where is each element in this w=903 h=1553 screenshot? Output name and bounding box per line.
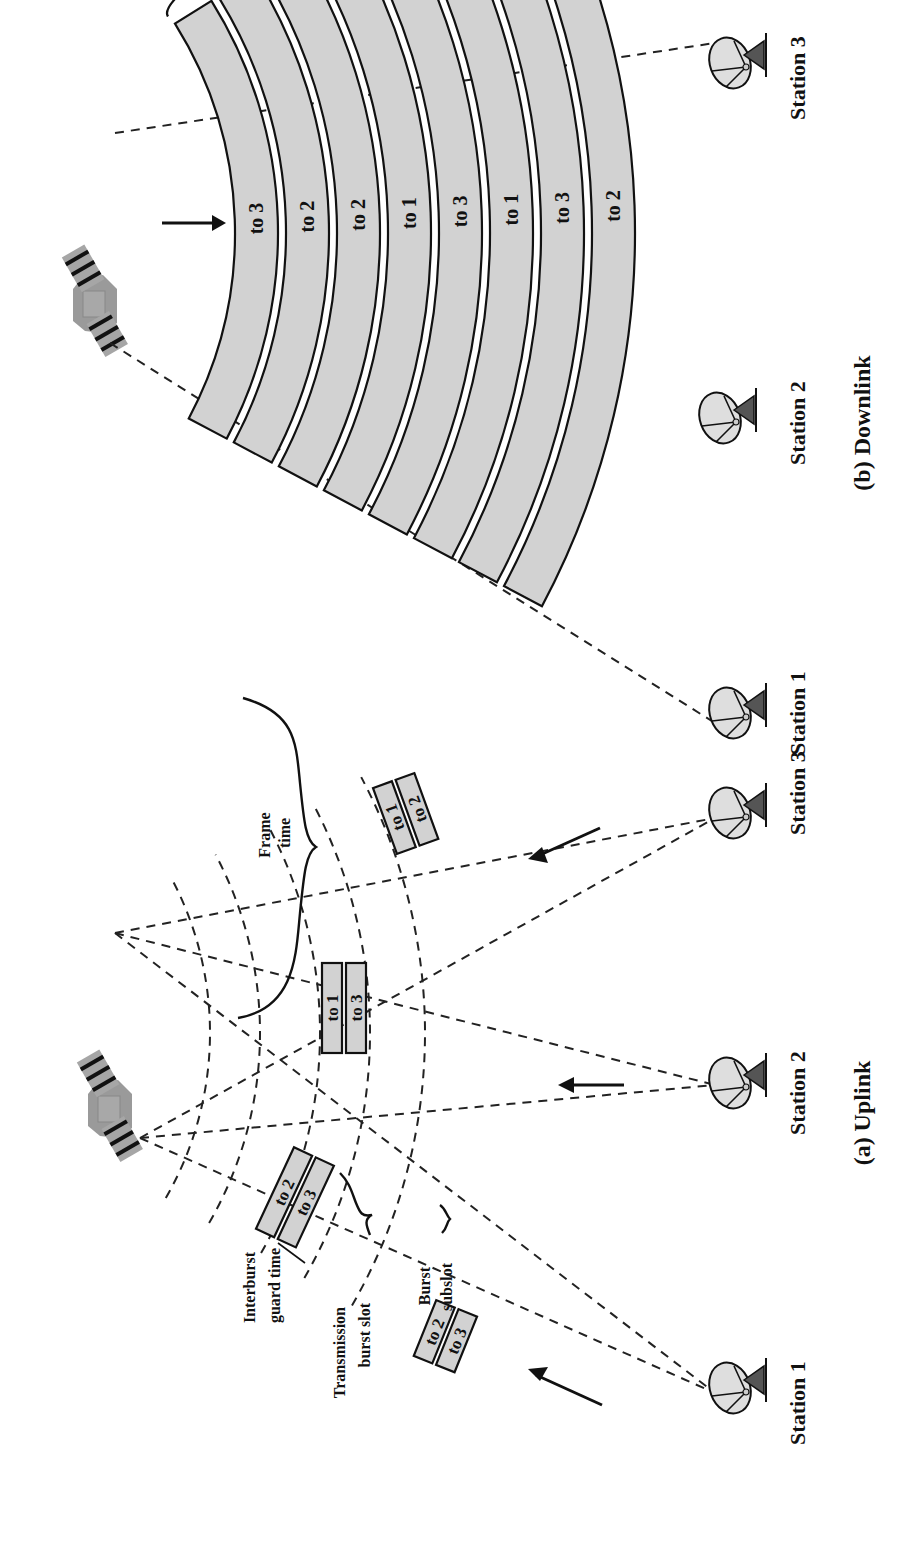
uplink-burst-label: to 1: [323, 995, 342, 1022]
uplink-signal-path: [115, 933, 715, 1393]
uplink-frame-arc: [166, 878, 210, 1198]
uplink-station-1-dish-icon: [702, 1357, 766, 1420]
downlink-band-label: to 2: [602, 190, 624, 222]
tdma-diagram: to 3to 2to 2to 1to 3to 1to 3to 2Transmis…: [0, 0, 903, 1553]
uplink-signal-path: [140, 818, 715, 1138]
uplink-burst: to 1to 2: [373, 773, 438, 854]
uplink-arrow-icon: [528, 828, 624, 1405]
uplink-station-3-dish-icon: [702, 782, 766, 845]
uplink-burst: to 1to 3: [322, 963, 366, 1053]
uplink-station-2-dish-icon: [702, 1052, 766, 1115]
downlink-station-3-label: Station 3: [785, 36, 810, 120]
uplink-station-2-label: Station 2: [785, 1051, 810, 1135]
downlink-station-1-label: Station 1: [785, 671, 810, 755]
uplink-satellite-icon: [77, 1050, 143, 1163]
downlink-band-label: to 2: [296, 201, 318, 233]
uplink-burst-label: to 3: [347, 995, 366, 1022]
downlink-station-1-dish-icon: [702, 682, 766, 745]
transmission-burst-slot-label: Transmission burst slot: [331, 1302, 373, 1398]
downlink-band-label: to 1: [500, 194, 522, 226]
satellite-icon: [62, 245, 128, 358]
uplink-caption: (a) Uplink: [849, 1060, 875, 1165]
uplink-signal-path: [115, 933, 715, 1085]
uplink-station-3-label: Station 3: [785, 751, 810, 835]
downlink-band-label: to 3: [245, 203, 267, 235]
interburst-guard-time-label: Interburst guard time: [241, 1248, 284, 1323]
downlink-caption: (b) Downlink: [849, 355, 875, 491]
downlink-station-2-dish-icon: [692, 387, 756, 450]
uplink-frame-arc: [209, 855, 260, 1223]
downlink-station-2-label: Station 2: [785, 381, 810, 465]
downlink-band-label: to 2: [347, 199, 369, 231]
downlink-band-label: to 1: [398, 197, 420, 229]
downlink-band-label: to 3: [449, 196, 471, 228]
uplink-signal-path: [140, 1085, 715, 1138]
downlink-frame-bands: to 3to 2to 2to 1to 3to 1to 3to 2Transmis…: [160, 0, 635, 606]
uplink-station-1-label: Station 1: [785, 1361, 810, 1445]
transmission-burst-slot-brace: [340, 1173, 372, 1235]
downlink-arrow-icon: [162, 215, 226, 231]
frame-time-label: Frame time: [256, 808, 293, 857]
downlink-panel: to 3to 2to 2to 1to 3to 1to 3to 2Transmis…: [62, 0, 875, 755]
uplink-panel: to 2to 3to 2to 3to 1to 3to 1to 2 Station…: [77, 698, 875, 1445]
downlink-station-3-dish-icon: [702, 32, 766, 95]
downlink-band-label: to 3: [551, 192, 573, 224]
uplink-burst: to 2to 3: [256, 1147, 334, 1247]
frame-time-brace: [238, 698, 316, 1018]
burst-subslot-brace: [440, 1205, 450, 1233]
